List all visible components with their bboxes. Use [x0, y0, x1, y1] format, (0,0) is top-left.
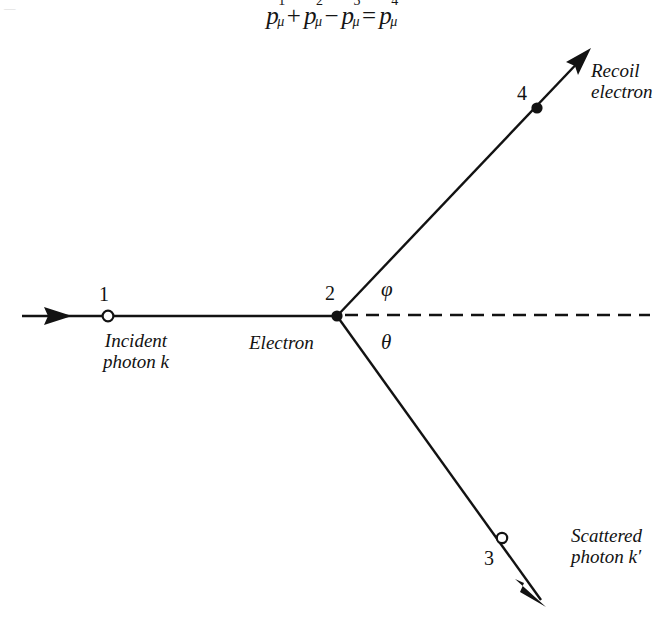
scattered-photon-line: [337, 316, 541, 600]
point-marker-3-open-circle: [497, 533, 507, 543]
point-number-4: 4: [517, 82, 527, 104]
recoil-electron-line: [337, 54, 586, 316]
point-marker-1-open-circle: [103, 311, 114, 322]
electron-vertex-label: Electron: [249, 332, 314, 353]
incident-photon-label: Incident photon k: [86, 330, 186, 373]
recoil-electron-label: Recoil electron: [591, 60, 653, 103]
point-number-2: 2: [325, 282, 335, 304]
incident-photon-arrowhead-icon: [44, 307, 72, 325]
diagram-svg: [0, 0, 659, 635]
scattered-photon-label: Scattered photon k′: [571, 525, 642, 568]
scattered-photon-arrowhead-icon: [515, 579, 546, 607]
recoil-electron-label-line2: electron: [591, 81, 653, 102]
angle-theta-label: θ: [381, 331, 391, 355]
scattered-photon-label-line2: photon k′: [571, 546, 642, 567]
scattered-photon-label-line1: Scattered: [571, 525, 642, 546]
incident-photon-label-line1: Incident: [86, 330, 186, 351]
point-marker-2-filled-dot: [331, 310, 342, 321]
angle-phi-label: φ: [381, 278, 393, 302]
point-marker-4-filled-dot: [531, 102, 542, 113]
recoil-electron-label-line1: Recoil: [591, 60, 653, 81]
point-number-1: 1: [99, 283, 109, 305]
figure-canvas: — p1μ+p2μ−p3μ=p4μ 1 2 3 4 Incident photo…: [0, 0, 659, 635]
point-number-3: 3: [484, 547, 494, 569]
incident-photon-label-line2: photon k: [86, 351, 186, 372]
